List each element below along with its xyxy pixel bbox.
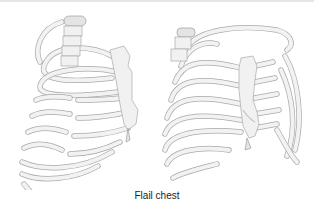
spine-left [61,16,86,66]
rib-cage-illustration-right [157,0,314,190]
figure-caption: Flail chest [0,190,314,201]
rib-cage-illustration-left [0,0,157,190]
sternum-right [239,56,259,150]
